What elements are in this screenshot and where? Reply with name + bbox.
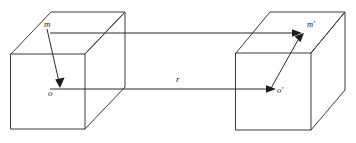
label-r: r [176,74,180,84]
label-m: m [44,19,51,29]
right-cube-right-face [311,12,345,130]
top-connector-arrow [50,29,302,37]
label-o-prime: o′ [277,85,283,95]
r-connector-arrow [50,85,276,93]
diagram-canvas: m o r m′ o′ [0,0,356,143]
vector-m-to-o [47,29,65,88]
left-cube-right-face [85,12,125,129]
label-o: o [48,88,53,98]
figure-root: m o r m′ o′ [0,0,356,143]
right-cube [236,12,345,130]
vector-m-to-o-line [47,29,59,82]
label-m-prime: m′ [307,19,315,29]
vector-oprime-to-mprime-line [270,40,298,90]
vector-oprime-to-mprime [270,33,304,90]
vector-m-to-o-arrowhead [55,78,64,88]
right-cube-front-face [236,53,311,130]
left-cube [11,12,125,129]
